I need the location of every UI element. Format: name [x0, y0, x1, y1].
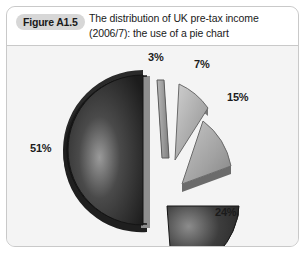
figure-card: Figure A1.5 The distribution of UK pre-t…	[6, 6, 299, 247]
pie-label-51: 51%	[30, 142, 51, 154]
figure-title-line-2: (2006/7): the use of a pie chart	[89, 26, 292, 41]
figure-number-badge: Figure A1.5	[16, 14, 85, 30]
pie-chart-area: 51% 3% 7% 15% 24%	[7, 46, 298, 247]
pie-slice-51[interactable]	[67, 75, 147, 225]
pie-label-3: 3%	[148, 51, 164, 63]
pie-label-15: 15%	[227, 91, 248, 103]
figure-header: Figure A1.5 The distribution of UK pre-t…	[7, 7, 298, 46]
pie-label-24: 24%	[215, 206, 236, 218]
figure-title-line-1: The distribution of UK pre-tax income	[89, 11, 292, 26]
pie-slice-3[interactable]	[157, 80, 169, 158]
figure-title: The distribution of UK pre-tax income (2…	[89, 11, 292, 41]
pie-label-7: 7%	[194, 58, 210, 70]
